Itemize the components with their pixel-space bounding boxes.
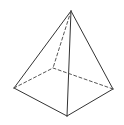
edge-apex-right (71, 11, 113, 89)
edge-left-back (14, 68, 53, 88)
square-pyramid-diagram (0, 0, 124, 125)
edge-left-front (14, 88, 67, 116)
visible-edges (14, 11, 113, 116)
hidden-edges (14, 11, 113, 89)
edge-back-right (53, 68, 113, 89)
edge-front-right (67, 89, 113, 116)
edge-apex-left (14, 11, 71, 88)
edge-apex-front (67, 11, 71, 116)
edge-apex-back (53, 11, 71, 68)
